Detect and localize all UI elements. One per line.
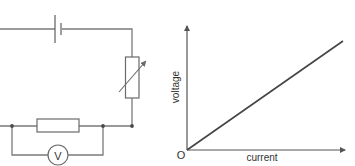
junction-dot	[101, 124, 105, 128]
voltmeter-label: V	[54, 150, 62, 162]
origin-label: O	[177, 149, 186, 161]
plot-line	[187, 41, 343, 150]
voltage-current-graph: O current voltage	[170, 26, 345, 163]
figure: V O current voltage	[0, 0, 355, 166]
junction-dot	[10, 124, 14, 128]
fixed-resistor	[37, 119, 79, 132]
junction-dot	[130, 124, 134, 128]
top-wire-right	[62, 29, 132, 57]
y-axis-label: voltage	[170, 70, 181, 103]
x-axis-label: current	[246, 152, 277, 163]
cell-symbol	[55, 15, 61, 43]
voltmeter: V	[48, 145, 68, 165]
circuit-diagram: V	[0, 15, 145, 165]
variable-resistor	[119, 57, 145, 98]
